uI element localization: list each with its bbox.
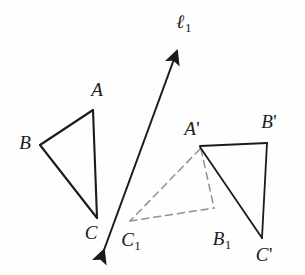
geometry-figure: A B C C1 B1 A' B' C' ℓ1 — [0, 0, 305, 275]
triangle-abc — [40, 110, 97, 218]
label-B1-subscript: 1 — [224, 237, 231, 252]
edge-a-c — [93, 110, 97, 218]
label-C-prime-mark: ' — [268, 244, 272, 265]
ell-glyph: ℓ — [176, 10, 184, 32]
label-C1-subscript: 1 — [134, 238, 141, 253]
label-B-prime: B' — [261, 112, 277, 131]
label-A-prime: A' — [184, 119, 200, 138]
label-B-prime-mark: ' — [273, 111, 277, 132]
label-C1: C1 — [121, 230, 141, 252]
edge-a-prime-b-prime — [200, 143, 267, 146]
label-A: A — [91, 80, 103, 99]
edge-b-c — [40, 145, 97, 218]
label-B1: B1 — [213, 229, 232, 251]
label-line-ell-1: ℓ1 — [176, 11, 191, 34]
dashed-edge-a-prime-c1 — [130, 149, 200, 221]
edge-b-prime-c-prime — [262, 143, 267, 238]
label-C-prime: C' — [256, 245, 273, 264]
label-A-prime-mark: ' — [196, 118, 200, 139]
line-ell-1 — [104, 51, 177, 250]
label-C: C — [85, 223, 98, 242]
ell-subscript: 1 — [185, 19, 192, 34]
edge-b-a — [40, 110, 93, 145]
line-ell-1-shaft — [104, 51, 177, 250]
label-B: B — [19, 133, 31, 152]
edge-a-prime-c-prime — [200, 147, 262, 238]
dashed-edge-c1-b1 — [130, 208, 214, 221]
triangle-a1b1c1 — [130, 149, 214, 221]
figure-canvas — [0, 0, 305, 275]
